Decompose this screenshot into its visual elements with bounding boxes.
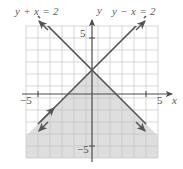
x-axis-label: x [172, 95, 177, 106]
tick-label-y-positive-5: 5 [80, 28, 86, 39]
graph-figure: y + x = 2 y − x = 2 y x 5 −5 −5 5 [0, 0, 183, 169]
equation-label-left: y + x = 2 [15, 6, 59, 17]
y-axis-label: y [97, 5, 102, 16]
tick-label-x-positive-5: 5 [157, 95, 163, 106]
coordinate-plane-svg [0, 0, 183, 169]
equation-label-right: y − x = 2 [112, 6, 156, 17]
tick-label-y-negative-5: −5 [77, 144, 89, 155]
tick-label-x-negative-5: −5 [20, 95, 32, 106]
